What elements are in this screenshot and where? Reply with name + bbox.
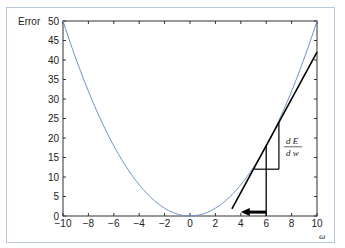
y-tick-label: 25	[48, 113, 60, 124]
x-tick-label: 6	[263, 218, 269, 229]
y-tick-label: 10	[48, 172, 60, 183]
x-tick-label: 2	[213, 218, 219, 229]
derivative-numerator: d E	[286, 136, 299, 146]
y-tick-label: 45	[48, 35, 60, 46]
y-tick-label: 20	[48, 133, 60, 144]
derivative-denominator: d w	[286, 148, 299, 158]
x-tick-label: −6	[108, 218, 120, 229]
y-tick-label: 50	[48, 16, 60, 27]
y-tick-label: 5	[53, 191, 59, 202]
tangent-line	[232, 52, 317, 209]
y-tick-label: 40	[48, 55, 60, 66]
y-tick-label: 30	[48, 94, 60, 105]
plot-area	[63, 21, 317, 216]
y-tick-label: 15	[48, 152, 60, 163]
x-tick-label: −2	[159, 218, 171, 229]
y-tick-label: 0	[53, 211, 59, 222]
x-tick-label: −8	[83, 218, 95, 229]
arrow-left-icon	[241, 208, 250, 216]
error-curve	[63, 21, 317, 216]
x-tick-label: 0	[187, 218, 193, 229]
x-tick-label: 8	[289, 218, 295, 229]
y-axis-label: Error	[18, 16, 41, 27]
x-axis-label: ω	[319, 231, 325, 241]
y-tick-label: 35	[48, 74, 60, 85]
x-tick-label: −4	[133, 218, 145, 229]
x-tick-label: 10	[311, 218, 323, 229]
error-chart: −10−8−6−4−2024681005101520253035404550Er…	[0, 0, 345, 248]
x-tick-label: 4	[238, 218, 244, 229]
